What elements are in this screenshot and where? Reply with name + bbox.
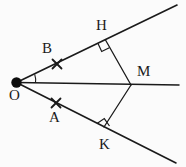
point-label-A: A — [49, 110, 60, 125]
point-label-K: K — [99, 137, 110, 152]
diagram-canvas — [0, 0, 186, 167]
geometry-figure: O B A H K M — [0, 0, 186, 167]
angle-arc-at-O — [35, 74, 36, 83]
tick-at-A — [52, 99, 61, 108]
point-label-B: B — [42, 41, 52, 56]
segment-MK — [104, 85, 131, 127]
point-label-O: O — [9, 88, 20, 103]
lower-ray-OK — [17, 83, 177, 164]
segment-MH — [106, 40, 132, 85]
point-label-M: M — [137, 64, 150, 79]
point-label-H: H — [96, 18, 107, 33]
bisector-ray-OM — [17, 83, 180, 86]
